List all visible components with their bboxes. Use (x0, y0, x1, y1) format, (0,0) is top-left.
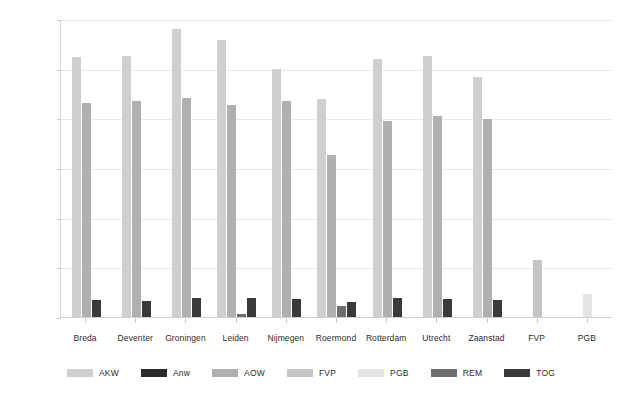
x-tick-label: Deventer (118, 333, 153, 343)
plot-area (60, 20, 612, 318)
bar (347, 302, 356, 317)
legend-swatch (212, 369, 238, 377)
bar-group (262, 20, 312, 317)
legend-swatch (141, 369, 167, 377)
y-tick-mark (57, 318, 61, 319)
legend-swatch (431, 369, 457, 377)
bar (393, 298, 402, 317)
x-tick-mark (286, 318, 287, 323)
bar (292, 299, 301, 317)
bar-group (111, 20, 161, 317)
bar (192, 298, 201, 317)
legend-item[interactable]: AKW (67, 368, 119, 378)
bar (327, 155, 336, 317)
bar-group (61, 20, 111, 317)
legend-item[interactable]: TOG (504, 368, 555, 378)
x-tick-label: PGB (578, 333, 596, 343)
legend-label: PGB (390, 368, 409, 378)
x-tick-label: Utrecht (422, 333, 450, 343)
x-tick-mark (185, 318, 186, 323)
legend-item[interactable]: Anw (141, 368, 190, 378)
bar-group (161, 20, 211, 317)
chart-legend: AKWAnwAOWFVPPGBREMTOG (0, 368, 622, 378)
x-tick-label: FVP (528, 333, 545, 343)
bar (92, 300, 101, 317)
bar (237, 314, 246, 317)
bar (483, 119, 492, 317)
bar-chart: 300000250000200000150000100000500000 Bre… (0, 0, 622, 397)
bar (282, 101, 291, 317)
bar-groups (61, 20, 612, 317)
x-tick-mark (386, 318, 387, 323)
bar (132, 101, 141, 317)
legend-label: AKW (99, 368, 119, 378)
x-tick-mark (587, 318, 588, 323)
bar (72, 57, 81, 317)
legend-item[interactable]: FVP (287, 368, 336, 378)
x-tick-mark (236, 318, 237, 323)
legend-swatch (504, 369, 530, 377)
legend-item[interactable]: REM (431, 368, 483, 378)
bar (172, 29, 181, 317)
bar (373, 59, 382, 317)
bar-group (563, 20, 613, 317)
bar (122, 56, 131, 317)
bar (182, 98, 191, 317)
x-tick-label: Roermond (316, 333, 357, 343)
bar (583, 294, 592, 317)
bar (272, 69, 281, 317)
bar-group (412, 20, 462, 317)
legend-label: FVP (319, 368, 336, 378)
bar (247, 298, 256, 317)
bar (227, 105, 236, 317)
x-tick-label: Breda (73, 333, 96, 343)
legend-label: REM (463, 368, 483, 378)
bar (473, 77, 482, 317)
bar-group (362, 20, 412, 317)
legend-swatch (358, 369, 384, 377)
bar (383, 121, 392, 317)
x-tick-label: Nijmegen (267, 333, 304, 343)
bar-group (212, 20, 262, 317)
bar (533, 260, 542, 317)
x-tick-mark (537, 318, 538, 323)
x-tick-label: Leiden (223, 333, 249, 343)
x-tick-mark (436, 318, 437, 323)
legend-swatch (287, 369, 313, 377)
bar (493, 300, 502, 317)
bar (142, 301, 151, 317)
legend-label: Anw (173, 368, 190, 378)
bar (317, 99, 326, 317)
x-tick-mark (135, 318, 136, 323)
x-tick-label: Groningen (165, 333, 206, 343)
bar (82, 103, 91, 317)
x-tick-label: Rotterdam (366, 333, 407, 343)
bar (337, 306, 346, 317)
x-tick-label: Zaanstad (468, 333, 504, 343)
x-tick-mark (336, 318, 337, 323)
legend-label: AOW (244, 368, 265, 378)
x-tick-mark (85, 318, 86, 323)
legend-item[interactable]: AOW (212, 368, 265, 378)
bar (217, 40, 226, 317)
bar-group (312, 20, 362, 317)
bar (423, 56, 432, 317)
legend-swatch (67, 369, 93, 377)
bar-group (513, 20, 563, 317)
legend-label: TOG (536, 368, 555, 378)
legend-item[interactable]: PGB (358, 368, 409, 378)
bar (443, 299, 452, 317)
bar-group (462, 20, 512, 317)
x-tick-mark (487, 318, 488, 323)
bar (433, 116, 442, 317)
